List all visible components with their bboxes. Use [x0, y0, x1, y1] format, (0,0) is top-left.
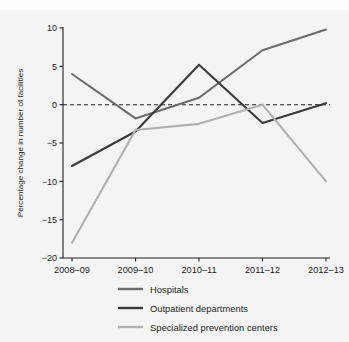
y-tick-label: −15 [42, 215, 57, 225]
series-line-2 [72, 105, 326, 243]
y-tick-label: 5 [52, 62, 57, 72]
figure-top-caption [8, 0, 208, 10]
legend-label-2: Specialized prevention centers [150, 322, 278, 333]
figure-container: Percentage change in number of facilitie… [0, 0, 349, 342]
x-tick-label: 2009–10 [118, 265, 154, 275]
y-tick-label: 0 [52, 100, 57, 110]
y-tick-label: −10 [42, 177, 57, 187]
axes [60, 27, 331, 262]
line-chart: Percentage change in number of facilitie… [0, 10, 349, 342]
series-line-1 [72, 65, 326, 166]
legend-label-1: Outpatient departments [150, 303, 248, 314]
x-tick-label: 2012–13 [308, 265, 344, 275]
chart-legend: HospitalsOutpatient departmentsSpecializ… [118, 284, 278, 333]
x-tick-label: 2011–12 [245, 265, 280, 275]
data-series-group [72, 30, 326, 243]
x-tick-label: 2008–09 [54, 265, 90, 275]
legend-label-0: Hospitals [150, 284, 189, 295]
y-axis-tick-labels: 1050−5−10−15−20 [42, 23, 57, 263]
y-tick-label: 10 [47, 23, 57, 33]
y-tick-label: −20 [42, 253, 57, 263]
y-tick-label: −5 [47, 138, 57, 148]
x-tick-label: 2010–11 [181, 265, 216, 275]
y-axis-label: Percentage change in number of facilitie… [16, 69, 25, 217]
x-axis-tick-labels: 2008–092009–102010–112011–122012–13 [54, 265, 344, 275]
y-axis-title: Percentage change in number of facilitie… [16, 69, 25, 217]
plot-frame: Percentage change in number of facilitie… [0, 10, 349, 342]
